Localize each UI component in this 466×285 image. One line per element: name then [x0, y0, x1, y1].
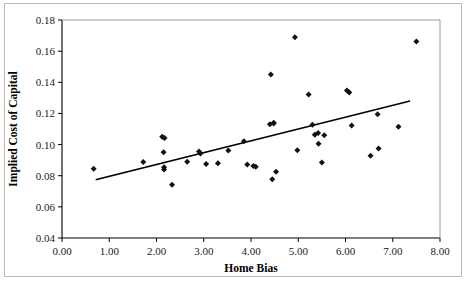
data-point [368, 153, 374, 159]
data-point [306, 91, 312, 97]
chart-canvas: 0.040.060.080.100.120.140.160.180.001.00… [0, 0, 466, 285]
data-point [203, 161, 209, 167]
data-point [140, 159, 146, 165]
y-tick-label: 0.04 [36, 232, 56, 244]
x-tick-label: 0.00 [52, 245, 72, 257]
data-point [184, 159, 190, 165]
y-tick-label: 0.12 [36, 107, 55, 119]
y-tick-label: 0.14 [36, 76, 56, 88]
data-point [225, 147, 231, 153]
data-point [321, 132, 327, 138]
data-point [169, 182, 175, 188]
data-point [161, 149, 167, 155]
x-tick-label: 3.00 [194, 245, 214, 257]
y-tick-label: 0.18 [36, 14, 56, 26]
data-point [316, 141, 322, 147]
data-point [269, 176, 275, 182]
data-point [319, 159, 325, 165]
data-point [349, 122, 355, 128]
x-axis-title: Home Bias [224, 262, 278, 274]
data-point [294, 147, 300, 153]
data-point [91, 166, 97, 172]
data-point [395, 124, 401, 130]
data-point [273, 169, 279, 175]
x-tick-label: 6.00 [336, 245, 356, 257]
data-point [292, 34, 298, 40]
data-point [215, 160, 221, 166]
data-point [375, 111, 381, 117]
x-tick-label: 4.00 [241, 245, 261, 257]
data-point [413, 38, 419, 44]
y-tick-label: 0.16 [36, 45, 56, 57]
x-tick-label: 1.00 [100, 245, 120, 257]
data-point [376, 145, 382, 151]
y-tick-label: 0.06 [36, 201, 56, 213]
data-point [244, 162, 250, 168]
x-tick-label: 8.00 [430, 245, 450, 257]
scatter-chart-figure: 0.040.060.080.100.120.140.160.180.001.00… [0, 0, 466, 285]
y-tick-label: 0.08 [36, 170, 56, 182]
x-tick-label: 7.00 [383, 245, 403, 257]
x-tick-label: 2.00 [147, 245, 167, 257]
x-tick-label: 5.00 [289, 245, 309, 257]
data-point [271, 121, 277, 127]
data-point [268, 72, 274, 78]
y-tick-label: 0.10 [36, 139, 56, 151]
y-axis-title: Implied Cost of Capital [7, 71, 20, 186]
